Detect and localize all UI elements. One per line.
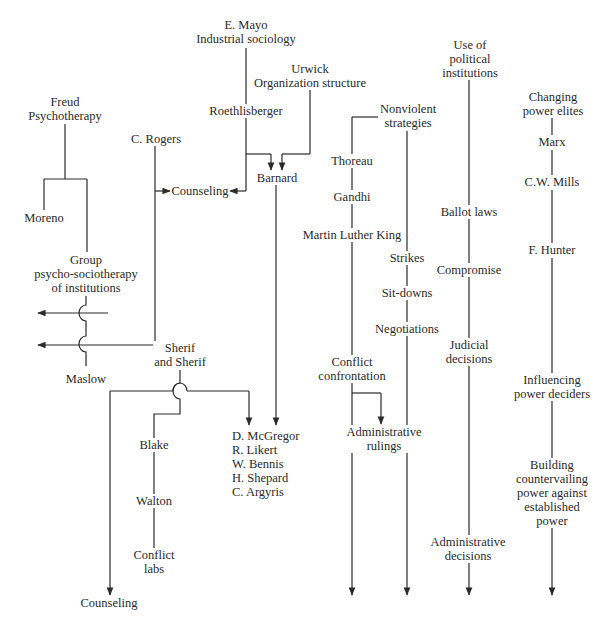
node-roethlisberger: Roethlisberger [208,104,283,118]
node-nonviolent-strategies: Nonviolent strategies [379,102,437,130]
freud-connectors [44,124,87,252]
node-nonviolent-line-2: strategies [380,116,436,130]
node-group-line-3: of institutions [34,281,137,295]
node-sitdowns-name: Sit-downs [382,286,433,300]
node-political-line-2: political [442,52,498,66]
node-mayo-name: E. Mayo [196,18,296,32]
node-conflict-confrontation-line-2: confrontation [318,369,385,383]
node-compromise: Compromise [436,263,503,277]
node-mlk-name: Martin Luther King [303,228,402,242]
node-group-line-2: psycho-sociotherapy [34,267,137,281]
node-f-hunter: F. Hunter [528,243,577,257]
node-argyris: C. Argyris [232,485,299,499]
node-counseling-bottom: Counseling [80,596,139,610]
group-to-maslow-connector [79,296,86,366]
node-od-group: D. McGregor R. Likert W. Bennis H. Shepa… [231,429,300,499]
node-conflict-labs-line-1: Conflict [134,548,175,562]
node-strikes: Strikes [389,251,426,265]
node-freud-name: Freud [28,95,102,109]
node-rogers: C. Rogers [130,132,182,146]
node-judicial-line-2: decisions [446,352,493,366]
node-urwick: Urwick Organization structure [253,62,367,90]
node-group-line-1: Group [34,253,137,267]
node-judicial-line-1: Judicial [446,338,493,352]
node-admin-rulings-line-2: rulings [347,439,422,453]
node-rogers-name: C. Rogers [131,132,181,146]
node-shepard: H. Shepard [232,471,299,485]
rogers-connector [155,146,170,345]
node-countervailing-line-1: Building [516,458,588,472]
node-conflict-labs: Conflict labs [133,548,176,576]
sherif-connectors [110,370,249,595]
node-gandhi: Gandhi [333,190,372,204]
node-negotiations-name: Negotiations [375,322,439,336]
node-administrative-rulings: Administrative rulings [346,425,423,453]
node-countervailing-line-3: power against [516,486,588,500]
node-political-line-1: Use of [442,38,498,52]
node-thoreau-name: Thoreau [331,154,373,168]
node-moreno-name: Moreno [24,211,64,225]
node-thoreau: Thoreau [330,154,374,168]
node-mayo-field: Industrial sociology [196,32,296,46]
node-freud-field: Psychotherapy [28,109,102,123]
node-administrative-decisions: Administrative decisions [430,535,507,563]
node-conflict-labs-line-2: labs [134,562,175,576]
node-countervailing-line-5: power [516,514,588,528]
node-negotiations: Negotiations [374,322,440,336]
node-admin-decisions-line-1: Administrative [431,535,506,549]
node-power-elites-line-1: Changing [523,90,584,104]
node-hunter-name: F. Hunter [529,243,576,257]
node-strikes-name: Strikes [390,251,425,265]
node-walton-name: Walton [136,494,172,508]
node-ballot-laws-name: Ballot laws [441,205,498,219]
node-political-institutions: Use of political institutions [441,38,499,80]
node-urwick-field: Organization structure [254,76,366,90]
node-marx-name: Marx [538,135,565,149]
node-conflict-confrontation: Conflict confrontation [317,355,386,383]
node-marx: Marx [537,135,566,149]
node-counseling-top-name: Counseling [172,184,229,198]
node-admin-decisions-line-2: decisions [431,549,506,563]
node-compromise-name: Compromise [437,263,502,277]
node-moreno: Moreno [23,211,65,225]
node-maslow: Maslow [65,372,107,386]
node-mcgregor: D. McGregor [232,429,299,443]
urwick-connector [282,84,310,170]
node-mayo: E. Mayo Industrial sociology [195,18,297,46]
node-blake: Blake [138,438,169,452]
node-sherif-line-2: and Sherif [154,355,206,369]
node-mlk: Martin Luther King [302,228,403,242]
node-changing-power-elites: Changing power elites [522,90,585,118]
node-sitdowns: Sit-downs [381,286,434,300]
node-political-line-3: institutions [442,66,498,80]
node-blake-name: Blake [139,438,168,452]
node-counseling-top: Counseling [171,184,230,198]
left-arrows [38,313,155,345]
node-urwick-name: Urwick [254,62,366,76]
node-sherif-line-1: Sherif [154,341,206,355]
node-gandhi-name: Gandhi [334,190,371,204]
node-freud: Freud Psychotherapy [27,95,103,123]
node-influencing-line-2: power deciders [514,387,590,401]
node-maslow-name: Maslow [66,372,106,386]
node-influencing-line-1: Influencing [514,373,590,387]
node-countervailing-line-2: countervailing [516,472,588,486]
node-barnard-name: Barnard [257,171,297,185]
node-cw-mills: C.W. Mills [524,175,581,189]
node-building-countervailing-power: Building countervailing power against es… [515,458,589,528]
node-barnard: Barnard [256,171,298,185]
node-influencing-power-deciders: Influencing power deciders [513,373,591,401]
node-judicial-decisions: Judicial decisions [445,338,494,366]
node-nonviolent-line-1: Nonviolent [380,102,436,116]
node-likert: R. Likert [232,443,299,457]
node-mills-name: C.W. Mills [525,175,580,189]
node-power-elites-line-2: power elites [523,104,584,118]
node-counseling-bottom-name: Counseling [81,596,138,610]
node-walton: Walton [135,494,173,508]
node-bennis: W. Bennis [232,457,299,471]
node-conflict-confrontation-line-1: Conflict [318,355,385,369]
node-group-psycho-sociotherapy: Group psycho-sociotherapy of institution… [33,253,138,295]
node-sherif: Sherif and Sherif [153,341,207,369]
node-ballot-laws: Ballot laws [440,205,499,219]
node-admin-rulings-line-1: Administrative [347,425,422,439]
